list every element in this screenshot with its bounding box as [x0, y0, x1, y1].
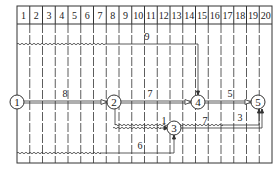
- time-unit-label: 16: [210, 10, 220, 21]
- svg-text:5: 5: [255, 96, 261, 108]
- time-unit-label: 2: [34, 10, 39, 21]
- time-unit-label: 9: [123, 10, 128, 21]
- time-unit-label: 5: [72, 10, 77, 21]
- event-node-4: 4: [191, 95, 205, 109]
- time-unit-label: 1: [21, 10, 26, 21]
- time-unit-label: 3: [46, 10, 51, 21]
- time-unit-label: 20: [261, 10, 271, 21]
- activity-duration-label: 7: [148, 88, 153, 99]
- time-unit-label: 7: [97, 10, 102, 21]
- time-unit-label: 10: [133, 10, 143, 21]
- time-unit-label: 18: [235, 10, 245, 21]
- time-unit-label: 8: [110, 10, 115, 21]
- activity-duration-label: 8: [63, 88, 68, 99]
- activity-duration-label: 1: [162, 115, 167, 126]
- event-node-2: 2: [107, 95, 121, 109]
- svg-text:2: 2: [111, 96, 117, 108]
- time-unit-label: 17: [222, 10, 232, 21]
- time-unit-label: 15: [197, 10, 207, 21]
- activity-duration-label: 9: [145, 31, 150, 42]
- network-diagram: 1234567891011121314151617181920 12453 87…: [0, 0, 276, 190]
- time-header: 1234567891011121314151617181920: [21, 10, 271, 21]
- time-grid: [17, 6, 272, 163]
- time-unit-label: 14: [184, 10, 194, 21]
- activity-duration-label: 7: [203, 115, 208, 126]
- time-unit-label: 4: [59, 10, 64, 21]
- event-node-1: 1: [10, 95, 24, 109]
- time-unit-label: 12: [159, 10, 169, 21]
- time-unit-label: 11: [146, 10, 156, 21]
- activity-duration-label: 5: [228, 88, 233, 99]
- time-unit-label: 19: [248, 10, 258, 21]
- event-node-5: 5: [251, 95, 265, 109]
- time-unit-label: 6: [85, 10, 90, 21]
- time-unit-label: 13: [171, 10, 181, 21]
- svg-text:4: 4: [195, 96, 201, 108]
- activity-duration-label: 3: [238, 112, 243, 123]
- svg-text:3: 3: [171, 122, 177, 134]
- svg-text:1: 1: [14, 96, 20, 108]
- activity-duration-label: 6: [138, 140, 143, 151]
- event-node-3: 3: [167, 121, 181, 135]
- activity-labels: 87593176: [63, 31, 243, 151]
